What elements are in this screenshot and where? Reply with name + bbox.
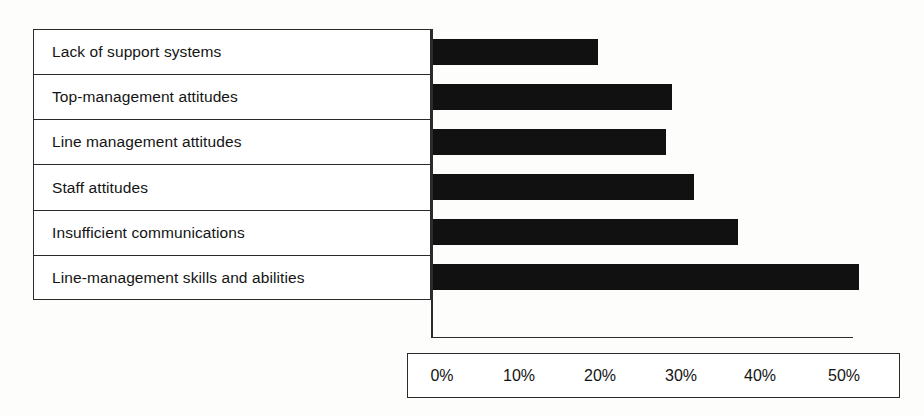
bar-lack-of-support-systems	[433, 39, 598, 65]
category-label: Line management attitudes	[52, 133, 241, 151]
bar-line-management-attitudes	[433, 129, 666, 155]
category-label: Staff attitudes	[52, 179, 148, 197]
axis-tick-label: 30%	[665, 367, 697, 385]
category-label: Line-management skills and abilities	[52, 269, 305, 287]
bar-row	[433, 74, 672, 119]
axis-tick-label: 10%	[503, 367, 535, 385]
category-axis-baseline	[431, 337, 853, 339]
axis-tick-label: 40%	[744, 367, 776, 385]
category-row: Staff attitudes	[34, 165, 430, 210]
axis-tick-label: 20%	[584, 367, 616, 385]
bar-insufficient-communications	[433, 219, 739, 245]
bar-row	[433, 210, 739, 255]
bar-chart: Lack of support systems Top-management a…	[0, 0, 924, 416]
bar-row	[433, 119, 666, 164]
category-label-table: Lack of support systems Top-management a…	[33, 29, 431, 300]
bar-line-management-skills-and-abilities	[433, 264, 860, 290]
category-row: Line management attitudes	[34, 120, 430, 165]
bar-row	[433, 29, 598, 74]
bar-row	[433, 255, 860, 300]
bar-top-management-attitudes	[433, 84, 672, 110]
category-row: Line-management skills and abilities	[34, 256, 430, 301]
bar-row	[433, 164, 695, 209]
category-row: Top-management attitudes	[34, 75, 430, 120]
bar-staff-attitudes	[433, 174, 695, 200]
category-row: Lack of support systems	[34, 30, 430, 75]
category-label: Lack of support systems	[52, 43, 221, 61]
axis-tick-label: 0%	[430, 367, 453, 385]
value-axis: 0% 10% 20% 30% 40% 50%	[407, 353, 900, 398]
axis-tick-label: 50%	[828, 367, 860, 385]
plot-area	[431, 29, 901, 338]
category-label: Top-management attitudes	[52, 88, 238, 106]
category-label: Insufficient communications	[52, 224, 245, 242]
category-row: Insufficient communications	[34, 211, 430, 256]
